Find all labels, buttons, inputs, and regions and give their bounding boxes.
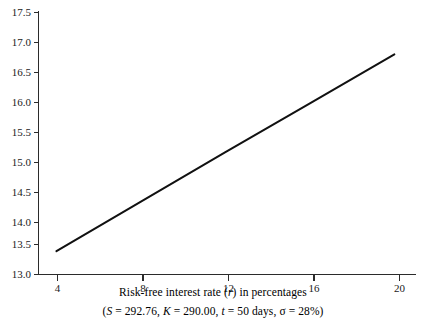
x-axis-label-suffix: ) in percentages: [233, 286, 307, 298]
caption-sigma-value: = 28%): [286, 305, 324, 317]
y-tick-label: 15.5: [12, 126, 32, 138]
y-tick-label: 17.0: [12, 36, 32, 48]
y-tick-label: 13.0: [12, 268, 32, 280]
caption-strike-value: = 290.00,: [171, 305, 222, 317]
x-tick-marks: [58, 275, 400, 281]
y-tick-label: 16.5: [12, 66, 32, 78]
data-series-line: [56, 54, 394, 251]
y-tick-marks: [34, 13, 39, 275]
y-tick-label: 15.0: [12, 156, 32, 168]
line-chart: 17.5 17.0 16.5 16.0 15.5 15.0 14.5 14.0 …: [0, 0, 426, 330]
y-tick-label: 16.0: [12, 96, 32, 108]
y-tick-label: 14.0: [12, 216, 32, 228]
caption-spot-value: = 292.76,: [112, 305, 163, 317]
y-tick-label: 17.5: [12, 6, 32, 18]
figure-container: 17.5 17.0 16.5 16.0 15.5 15.0 14.5 14.0 …: [0, 0, 426, 330]
x-axis-label-prefix: Risk-free interest rate (: [119, 286, 228, 298]
caption-time-value: = 50 days,: [225, 305, 280, 317]
x-axis-label: Risk-free interest rate (r) in percentag…: [0, 286, 426, 298]
figure-caption: (S = 292.76, K = 290.00, t = 50 days, σ …: [0, 305, 426, 317]
y-tick-label: 14.5: [12, 186, 32, 198]
caption-strike-symbol: K: [163, 305, 171, 317]
y-tick-label: 13.5: [12, 238, 32, 250]
